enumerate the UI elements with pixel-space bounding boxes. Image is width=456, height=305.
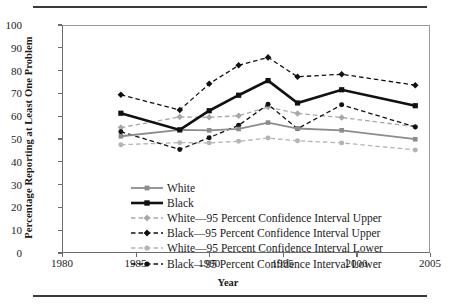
legend-label: Black—95 Percent Confidence Interval Low… <box>164 258 382 270</box>
y-tick-mark <box>58 161 62 162</box>
y-tick-mark <box>58 138 62 139</box>
legend-key-icon <box>130 182 164 194</box>
x-tick-mark <box>356 253 357 257</box>
legend-key-icon <box>130 258 164 270</box>
top-rule <box>33 6 427 8</box>
legend: WhiteBlackWhite—95 Percent Confidence In… <box>130 180 383 271</box>
y-tick-label: 50 <box>0 134 22 145</box>
legend-item[interactable]: White—95 Percent Confidence Interval Upp… <box>130 210 383 225</box>
legend-key-icon <box>130 212 164 224</box>
y-tick-label: 90 <box>0 42 22 53</box>
legend-item[interactable]: White <box>130 180 383 195</box>
y-tick-mark <box>58 70 62 71</box>
legend-item[interactable]: White—95 Percent Confidence Interval Low… <box>130 241 383 256</box>
y-tick-mark <box>58 24 62 25</box>
legend-label: White—95 Percent Confidence Interval Low… <box>164 242 383 254</box>
y-tick-label: 20 <box>0 202 22 213</box>
y-tick-label: 60 <box>0 111 22 122</box>
y-tick-mark <box>58 93 62 94</box>
y-axis-title: Percentage Reporting at Least One Proble… <box>23 16 34 260</box>
legend-label: White <box>164 182 195 194</box>
y-tick-mark <box>58 116 62 117</box>
x-tick-label: 2005 <box>405 257 455 269</box>
y-tick-label: 100 <box>0 20 22 31</box>
x-tick-mark <box>62 253 63 257</box>
legend-item[interactable]: Black <box>130 195 383 210</box>
legend-item[interactable]: Black—95 Percent Confidence Interval Upp… <box>130 226 383 241</box>
legend-key-icon <box>130 197 164 209</box>
legend-key-icon <box>130 227 164 239</box>
y-tick-label: 80 <box>0 65 22 76</box>
y-tick-label: 30 <box>0 179 22 190</box>
x-axis-title: Year <box>0 277 456 288</box>
legend-label: Black—95 Percent Confidence Interval Upp… <box>164 227 380 239</box>
x-tick-mark <box>136 253 137 257</box>
x-tick-mark <box>283 253 284 257</box>
y-tick-label: 70 <box>0 88 22 99</box>
x-tick-label: 1980 <box>37 257 87 269</box>
figure: Percentage Reporting at Least One Proble… <box>0 0 456 305</box>
x-tick-mark <box>209 253 210 257</box>
legend-item[interactable]: Black—95 Percent Confidence Interval Low… <box>130 256 383 271</box>
y-tick-mark <box>58 230 62 231</box>
plot-area: WhiteBlackWhite—95 Percent Confidence In… <box>62 25 430 253</box>
bottom-rule <box>33 295 427 297</box>
y-tick-mark <box>58 47 62 48</box>
x-tick-mark <box>430 253 431 257</box>
series-4 <box>118 136 417 153</box>
legend-label: White—95 Percent Confidence Interval Upp… <box>164 212 382 224</box>
y-tick-mark <box>58 184 62 185</box>
y-tick-label: 0 <box>0 248 22 259</box>
y-tick-label: 40 <box>0 156 22 167</box>
series-2 <box>118 104 419 131</box>
y-tick-label: 10 <box>0 225 22 236</box>
legend-label: Black <box>164 197 194 209</box>
y-tick-mark <box>58 207 62 208</box>
